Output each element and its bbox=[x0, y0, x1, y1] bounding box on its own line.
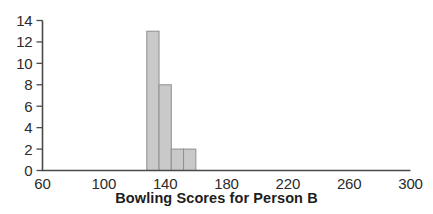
x-axis-tick-label: 60 bbox=[20, 176, 66, 191]
x-axis-tick-label: 260 bbox=[326, 176, 372, 191]
bars-group bbox=[147, 31, 196, 170]
x-axis-tick-label: 180 bbox=[204, 176, 250, 191]
x-axis-tick-label: 300 bbox=[388, 176, 433, 191]
histogram-bar bbox=[171, 149, 183, 170]
y-axis-tick-label: 14 bbox=[7, 13, 33, 28]
x-axis-tick-label: 140 bbox=[142, 176, 188, 191]
y-axis-tick-label: 6 bbox=[7, 99, 33, 114]
y-axis-tick-label: 12 bbox=[7, 34, 33, 49]
histogram-bar bbox=[184, 149, 196, 170]
y-axis-tick-label: 2 bbox=[7, 142, 33, 157]
y-axis-tick-label: 10 bbox=[7, 56, 33, 71]
y-axis-tick-label: 4 bbox=[7, 120, 33, 135]
axes-group bbox=[37, 21, 411, 171]
x-axis-tick-label: 100 bbox=[81, 176, 127, 191]
x-axis-title: Bowling Scores for Person B bbox=[0, 190, 433, 206]
histogram-bar bbox=[147, 31, 159, 170]
y-axis-tick-label: 8 bbox=[7, 77, 33, 92]
histogram-chart: 02468101214 60100140180220260300 Bowling… bbox=[0, 0, 433, 214]
histogram-bar bbox=[159, 85, 171, 171]
x-axis-tick-label: 220 bbox=[265, 176, 311, 191]
